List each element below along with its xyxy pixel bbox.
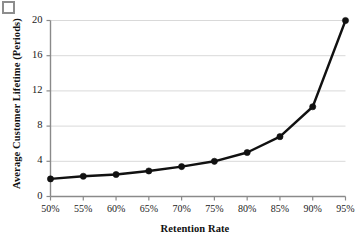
data-points <box>47 17 348 182</box>
data-point-80pct <box>244 149 250 155</box>
y-tick-label: 12 <box>17 84 43 95</box>
data-point-65pct <box>146 168 152 174</box>
y-tick-label: 20 <box>17 14 43 25</box>
y-tick-label: 4 <box>17 154 43 165</box>
data-point-55pct <box>80 173 86 179</box>
y-tick-label: 0 <box>17 190 43 201</box>
data-point-95pct <box>342 17 348 23</box>
data-point-50pct <box>47 176 53 182</box>
y-tick-label: 16 <box>17 49 43 60</box>
chart-figure: Average Customer Lifetime (Periods) Rete… <box>0 0 357 241</box>
series-polyline <box>51 21 346 179</box>
data-point-70pct <box>179 163 185 169</box>
axis-lines <box>51 21 346 197</box>
y-tick-label: 8 <box>17 119 43 130</box>
data-point-75pct <box>211 158 217 164</box>
data-point-85pct <box>277 134 283 140</box>
data-point-90pct <box>310 104 316 110</box>
x-tick-label: 95% <box>326 203 357 214</box>
data-point-60pct <box>113 171 119 177</box>
gridlines <box>51 21 346 162</box>
data-line <box>51 21 346 179</box>
